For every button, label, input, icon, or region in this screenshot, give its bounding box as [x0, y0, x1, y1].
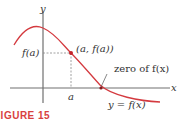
label-curve: y = f(x)	[107, 99, 146, 110]
label-a: a	[68, 91, 74, 102]
label-zero: zero of f(x)	[114, 63, 169, 74]
figure-caption: FIGURE 15	[0, 110, 50, 120]
label-f-of-a: f(a)	[21, 47, 40, 58]
label-point: (a, f(a))	[76, 43, 114, 54]
diagram-canvas: y x f(a) a (a, f(a)) zero of f(x) y = f(…	[0, 0, 181, 120]
zero-leader	[101, 74, 107, 87]
x-axis-label: x	[171, 82, 177, 93]
point-a-fa	[69, 51, 73, 55]
y-axis-label: y	[39, 3, 46, 14]
